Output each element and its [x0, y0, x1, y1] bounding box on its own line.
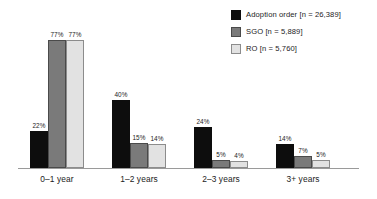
bar-wrap-0-1[interactable]: 77% — [48, 31, 66, 168]
bar-group-1: 40% 15% 14% — [112, 31, 166, 168]
bar-value-1-1: 15% — [132, 134, 145, 142]
bar-wrap-3-0[interactable]: 14% — [276, 31, 294, 168]
bar-wrap-0-2[interactable]: 77% — [66, 31, 84, 168]
bar-value-0-1: 77% — [50, 31, 63, 39]
bar-wrap-2-2[interactable]: 4% — [230, 31, 248, 168]
bar-1-2[interactable] — [148, 144, 166, 168]
bar-wrap-3-1[interactable]: 7% — [294, 31, 312, 168]
bar-value-0-0: 22% — [32, 122, 45, 130]
bar-value-1-2: 14% — [150, 135, 163, 143]
plot-area: 22% 77% 77% 0–1 year 40% 15% — [0, 0, 377, 199]
x-axis-label-2: 2–3 years — [194, 174, 248, 184]
x-axis-label-0: 0–1 year — [30, 174, 84, 184]
bar-wrap-1-2[interactable]: 14% — [148, 31, 166, 168]
bar-wrap-0-0[interactable]: 22% — [30, 31, 48, 168]
bar-2-0[interactable] — [194, 127, 212, 168]
bar-value-1-0: 40% — [114, 91, 127, 99]
bar-0-1[interactable] — [48, 40, 66, 168]
bar-wrap-2-1[interactable]: 5% — [212, 31, 230, 168]
x-axis-line — [18, 168, 359, 169]
bar-0-0[interactable] — [30, 131, 48, 168]
x-axis-label-1: 1–2 years — [112, 174, 166, 184]
bar-wrap-1-0[interactable]: 40% — [112, 31, 130, 168]
bar-1-1[interactable] — [130, 143, 148, 168]
bar-3-1[interactable] — [294, 156, 312, 168]
bar-value-3-2: 5% — [316, 151, 325, 159]
bar-2-2[interactable] — [230, 161, 248, 168]
bar-value-2-2: 4% — [234, 152, 243, 160]
bar-value-0-2: 77% — [68, 31, 81, 39]
bar-chart: Adoption order [n = 26,389] SGO [n = 5,8… — [0, 0, 377, 199]
bar-3-2[interactable] — [312, 160, 330, 168]
bar-wrap-3-2[interactable]: 5% — [312, 31, 330, 168]
bar-group-2: 24% 5% 4% — [194, 31, 248, 168]
bar-2-1[interactable] — [212, 160, 230, 168]
bar-value-2-1: 5% — [216, 151, 225, 159]
bar-wrap-1-1[interactable]: 15% — [130, 31, 148, 168]
bar-1-0[interactable] — [112, 100, 130, 168]
bar-group-3: 14% 7% 5% — [276, 31, 330, 168]
bar-value-3-0: 14% — [278, 135, 291, 143]
bar-value-3-1: 7% — [298, 147, 307, 155]
bar-value-2-0: 24% — [196, 118, 209, 126]
bar-0-2[interactable] — [66, 40, 84, 168]
x-axis-label-3: 3+ years — [276, 174, 330, 184]
bar-wrap-2-0[interactable]: 24% — [194, 31, 212, 168]
bar-3-0[interactable] — [276, 144, 294, 168]
bar-group-0: 22% 77% 77% — [30, 31, 84, 168]
